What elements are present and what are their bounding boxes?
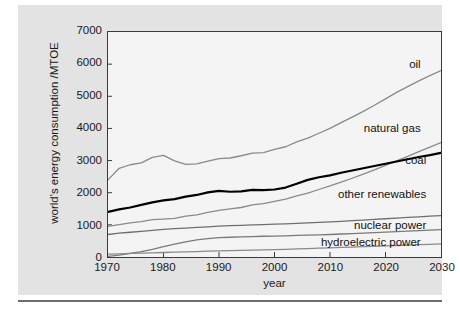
y-tick-label: 1000 xyxy=(56,220,102,231)
x-axis-tick-labels: 1970198019902000201020202030 xyxy=(107,261,442,277)
series-label-coal: coal xyxy=(405,154,426,166)
figure-page: 01000200030004000500060007000 world's en… xyxy=(0,0,460,312)
y-tick-label: 5000 xyxy=(56,90,102,101)
x-tick-label: 2020 xyxy=(373,261,399,273)
x-tick-label: 1970 xyxy=(94,261,120,273)
y-tick-label: 6000 xyxy=(56,57,102,68)
y-tick-label: 3000 xyxy=(56,155,102,166)
x-tick-label: 1980 xyxy=(150,261,176,273)
plot-area: oilnatural gascoalother renewablesnuclea… xyxy=(107,31,442,258)
series-label-oil: oil xyxy=(409,58,421,70)
x-tick-label: 2030 xyxy=(429,261,455,273)
series-label-other-renewables: other renewables xyxy=(338,188,426,200)
y-tick-label: 7000 xyxy=(56,25,102,36)
y-tick-label: 2000 xyxy=(56,187,102,198)
bottom-divider-rule xyxy=(18,300,442,302)
x-axis-title: year xyxy=(107,277,442,289)
y-tick-label: 4000 xyxy=(56,122,102,133)
series-label-hydroelectric-power: hydroelectric power xyxy=(321,236,421,248)
series-label-natural-gas: natural gas xyxy=(364,122,421,134)
x-tick-label: 1990 xyxy=(206,261,232,273)
series-line-coal xyxy=(108,153,441,212)
y-axis-title: world's energy consumption /MTOE xyxy=(48,19,60,247)
x-tick-label: 2000 xyxy=(262,261,288,273)
x-tick-label: 2010 xyxy=(318,261,344,273)
series-label-nuclear-power: nuclear power xyxy=(354,219,426,231)
series-line-natural-gas xyxy=(108,143,441,227)
figure-panel: 01000200030004000500060007000 world's en… xyxy=(18,5,442,295)
